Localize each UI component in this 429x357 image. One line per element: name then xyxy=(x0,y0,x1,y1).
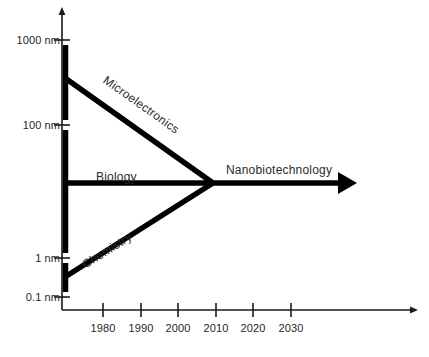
flow-label-nanobiotechnology: Nanobiotechnology xyxy=(226,163,332,177)
x-tick-label-2020: 2020 xyxy=(241,322,266,334)
y-tick-label-0.1nm: 0.1 nm xyxy=(26,291,60,303)
x-tick-label-2000: 2000 xyxy=(166,322,191,334)
diagram-canvas xyxy=(0,0,429,357)
y-axis-arrowhead xyxy=(59,7,66,15)
x-tick-label-2010: 2010 xyxy=(204,322,229,334)
x-tick-label-2030: 2030 xyxy=(279,322,304,334)
nanobiotechnology-convergence-diagram: 1000 nm 100 nm 1 nm 0.1 nm 1980 1990 200… xyxy=(0,0,429,357)
x-tick-label-1990: 1990 xyxy=(129,322,154,334)
y-tick-label-1nm: 1 nm xyxy=(35,252,60,264)
axes-group xyxy=(59,7,418,313)
nanobiotechnology-arrowhead xyxy=(338,172,357,194)
y-tick-label-100nm: 100 nm xyxy=(23,119,60,131)
flow-label-biology: Biology xyxy=(96,170,137,184)
x-tick-label-1980: 1980 xyxy=(91,322,116,334)
x-axis-arrowhead xyxy=(410,307,418,314)
y-tick-label-1000nm: 1000 nm xyxy=(16,34,60,46)
